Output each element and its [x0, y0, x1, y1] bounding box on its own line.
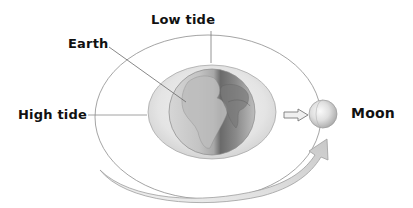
low-tide-label: Low tide — [151, 12, 215, 27]
high-tide-label: High tide — [18, 107, 87, 122]
moon — [309, 100, 337, 128]
gravity-arrow — [284, 109, 308, 121]
earth-globe — [169, 69, 255, 155]
moon-label: Moon — [351, 105, 395, 121]
earth-label: Earth — [68, 36, 109, 51]
tides-diagram — [0, 0, 413, 208]
